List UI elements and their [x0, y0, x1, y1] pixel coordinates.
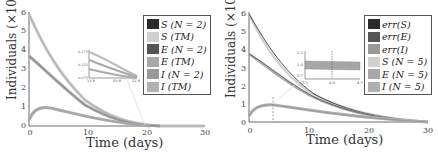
svg-text:3: 3: [21, 64, 26, 73]
legend-item: err(E): [368, 31, 428, 44]
legend-swatch: [147, 19, 159, 29]
svg-text:14.8: 14.8: [87, 79, 95, 83]
svg-text:1.3: 1.3: [297, 50, 304, 55]
legend-swatch: [147, 44, 159, 54]
svg-text:4: 4: [241, 45, 246, 54]
svg-text:2: 2: [241, 82, 246, 91]
legend-swatch: [368, 69, 380, 79]
svg-text:0.125: 0.125: [78, 63, 88, 67]
svg-text:0: 0: [21, 121, 26, 130]
legend-item: S (N = 2): [147, 18, 207, 31]
svg-text:20.8: 20.8: [113, 79, 121, 83]
chart-panel-right: 0 1 2 3 4 5 6 0 10 20 30: [219, 0, 438, 158]
chart-panel-left: 0 1 2 3 4 5 6 0 10 20 30: [0, 0, 219, 158]
svg-text:0: 0: [247, 126, 252, 135]
legend-item: S (TM): [147, 31, 207, 44]
legend-item: E (TM): [147, 56, 207, 69]
legend-swatch: [147, 69, 159, 79]
svg-text:4: 4: [21, 45, 26, 54]
legend-swatch: [368, 32, 380, 42]
svg-text:30: 30: [200, 128, 210, 137]
svg-text:1.0: 1.0: [297, 62, 304, 67]
svg-text:0: 0: [241, 118, 246, 127]
y-tick-labels: 0 1 2 3 4 5 6: [21, 8, 26, 130]
legend-swatch: [368, 82, 380, 92]
legend-swatch: [368, 19, 380, 29]
legend-item: err(I): [368, 43, 428, 56]
svg-text:3: 3: [241, 64, 246, 73]
legend-item: E (N = 5): [368, 68, 428, 81]
y-axis-label-right: Individuals (×106): [223, 0, 238, 98]
svg-text:1: 1: [21, 102, 26, 111]
legend-right: err(S) err(E) err(I) S (N = 5) E (N = 5)…: [364, 15, 432, 95]
svg-text:4.5: 4.5: [357, 80, 364, 85]
svg-text:1: 1: [241, 100, 246, 109]
legend-swatch: [147, 57, 159, 67]
inset-left: 0.175 0.125 0.075 14.8 20.8 22.8: [78, 50, 140, 83]
legend-item: I (N = 5): [368, 81, 428, 94]
svg-text:0: 0: [27, 128, 32, 137]
legend-left: S (N = 2) S (TM) E (N = 2) E (TM) I (N =…: [143, 15, 211, 95]
svg-text:3.5: 3.5: [302, 80, 309, 85]
svg-text:6: 6: [21, 8, 26, 17]
y-tick-labels: 0 1 2 3 4 5 6: [241, 9, 246, 127]
x-axis-label-left: Time (days): [86, 135, 163, 150]
inset-right: 1.3 1.0 0.7 3.5 4.0 4.5: [297, 50, 364, 85]
svg-text:30: 30: [423, 126, 433, 135]
svg-text:22.8: 22.8: [132, 79, 140, 83]
x-axis-label-right: Time (days): [306, 132, 383, 147]
svg-text:5: 5: [241, 27, 246, 36]
legend-item: I (TM): [147, 81, 207, 94]
svg-text:4.0: 4.0: [329, 80, 336, 85]
svg-text:5: 5: [21, 26, 26, 35]
legend-swatch: [147, 32, 159, 42]
legend-item: err(S): [368, 18, 428, 31]
svg-text:0.175: 0.175: [78, 50, 88, 54]
legend-swatch: [368, 57, 380, 67]
legend-item: S (N = 5): [368, 56, 428, 69]
svg-text:6: 6: [241, 9, 246, 18]
legend-swatch: [147, 82, 159, 92]
legend-item: I (N = 2): [147, 68, 207, 81]
legend-item: E (N = 2): [147, 43, 207, 56]
svg-text:0.7: 0.7: [297, 73, 304, 78]
svg-text:2: 2: [21, 83, 26, 92]
legend-swatch: [368, 44, 380, 54]
y-axis-label-left: Individuals (×106): [4, 0, 19, 100]
curve-i: [29, 108, 150, 127]
